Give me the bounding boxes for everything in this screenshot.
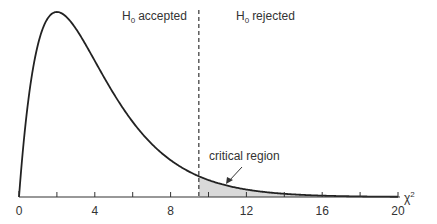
critical-region-label: critical region bbox=[209, 149, 280, 163]
x-tick-label: 16 bbox=[316, 204, 330, 218]
h0-accepted-label: H0accepted bbox=[122, 9, 187, 25]
x-tick-label: 8 bbox=[167, 204, 174, 218]
density-curve-path bbox=[19, 12, 398, 197]
x-tick-label: 20 bbox=[391, 204, 405, 218]
density-curve bbox=[19, 12, 398, 197]
critical-region-arrow bbox=[226, 167, 242, 184]
h0-rejected-label: H0rejected bbox=[236, 9, 295, 25]
x-axis-label: χ2 bbox=[404, 190, 415, 205]
x-tick-label: 4 bbox=[91, 204, 98, 218]
x-tick-label: 12 bbox=[240, 204, 254, 218]
x-tick-labels: 048121620 bbox=[16, 204, 405, 218]
chi-square-chart: 048121620 H0accepted H0rejected critical… bbox=[0, 0, 437, 224]
x-tick-label: 0 bbox=[16, 204, 23, 218]
